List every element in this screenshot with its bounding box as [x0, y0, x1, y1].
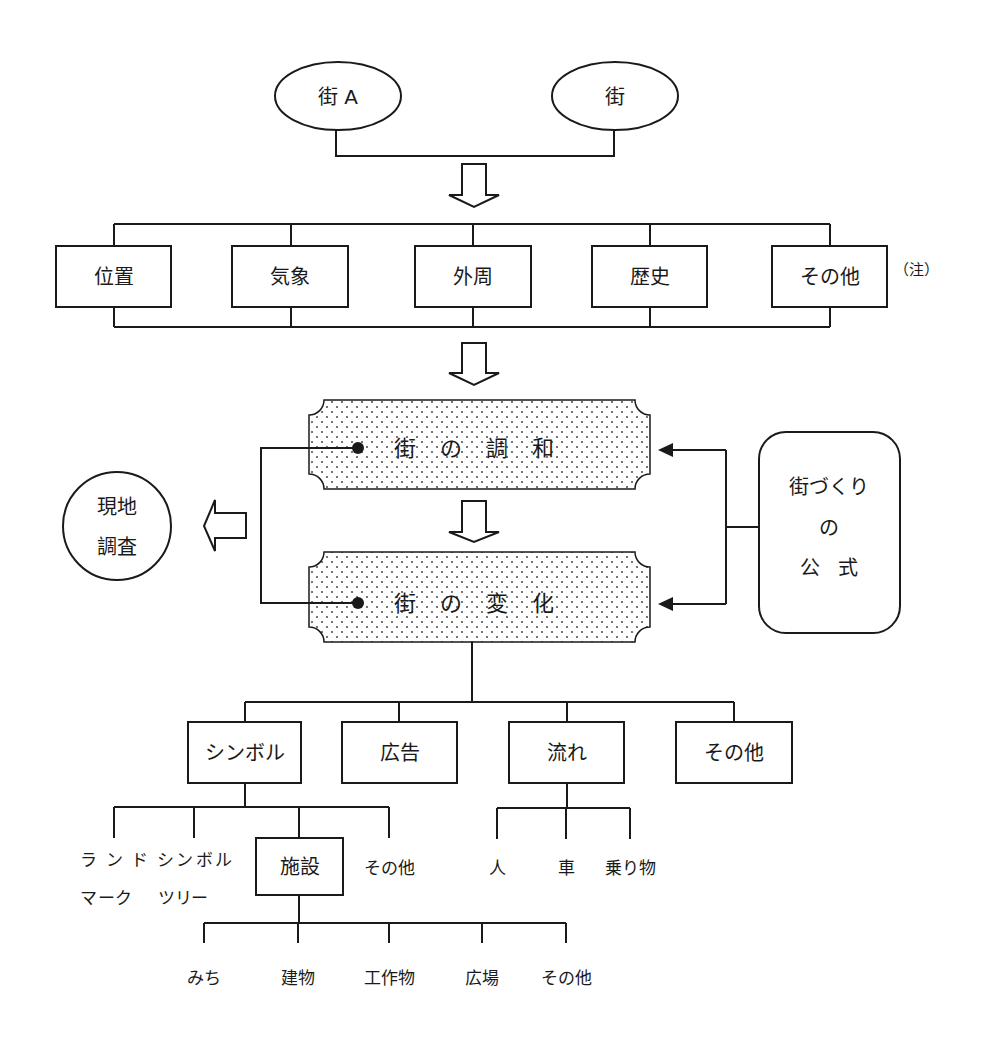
leaf-symbol-tree: シンボル ツリー — [157, 850, 232, 908]
leaf-label: マーク — [80, 888, 132, 908]
leaf-symbol-other: その他 — [364, 858, 415, 878]
leaf-plazas: 広場 — [465, 968, 499, 988]
node-facility: 施設 — [256, 838, 343, 895]
leaf-buildings: 建物 — [281, 968, 315, 988]
factor-label: 外周 — [453, 265, 493, 289]
leaf-roads: みち — [187, 968, 221, 988]
down-arrow-icon — [449, 164, 499, 207]
element-label: 広告 — [380, 741, 420, 765]
factor-label: 位置 — [94, 265, 134, 289]
leaf-label: シンボル — [157, 850, 232, 870]
loop-dot-icon — [352, 442, 364, 454]
field-survey-line1: 現地 — [97, 495, 137, 519]
facility-label: 施設 — [280, 855, 320, 879]
footnote-marker: （注） — [894, 261, 939, 279]
banner-change: 街の変化 — [309, 552, 650, 642]
factor-weather: 気象 — [232, 246, 348, 307]
formula-line2: の — [819, 516, 839, 540]
field-survey-line2: 調査 — [97, 535, 137, 559]
factor-surroundings: 外周 — [415, 246, 531, 307]
leaf-label: ランド — [80, 850, 148, 870]
formula-line1: 街づくり — [789, 475, 869, 499]
node-town-planning-formula: 街づくり の 公式 — [759, 432, 900, 633]
factor-label: 歴史 — [630, 265, 670, 289]
element-label: 流れ — [547, 741, 587, 765]
arrowhead-left-icon — [658, 443, 673, 457]
leaf-landmark: ランド マーク — [80, 850, 148, 908]
towns-connector — [336, 130, 614, 156]
element-advertising: 広告 — [342, 722, 457, 783]
element-flow: 流れ — [509, 722, 624, 783]
factor-label: 気象 — [270, 265, 310, 289]
down-arrow-icon — [449, 343, 499, 385]
element-label: シンボル — [205, 741, 285, 765]
factor-other: その他 — [772, 246, 887, 307]
loop-dot-icon — [352, 597, 364, 609]
node-field-survey: 現地 調査 — [63, 472, 171, 580]
leaf-cars: 車 — [558, 858, 575, 878]
leaf-facility-other: その他 — [541, 968, 592, 988]
arrowhead-left-icon — [658, 597, 673, 611]
leaf-vehicles: 乗り物 — [605, 858, 656, 878]
element-other: その他 — [676, 722, 792, 783]
town-a-label: 街 A — [318, 85, 358, 109]
node-town-a: 街 A — [275, 62, 401, 130]
down-arrow-icon — [449, 501, 499, 542]
factor-row: 位置 気象 外周 歴史 その他 （注） — [56, 224, 939, 327]
leaf-people: 人 — [489, 858, 506, 878]
element-label: その他 — [704, 741, 764, 765]
left-arrow-icon — [204, 500, 246, 551]
element-symbol: シンボル — [188, 722, 301, 783]
town-b-label: 街 — [605, 85, 625, 109]
factor-label: その他 — [800, 265, 860, 289]
factor-history: 歴史 — [592, 246, 707, 307]
townscape-diagram: 街 A 街 位置 気象 外周 歴史 そ — [0, 0, 994, 1044]
node-town-b: 街 — [552, 62, 678, 130]
leaf-structures: 工作物 — [364, 968, 415, 988]
factor-location: 位置 — [56, 246, 171, 307]
leaf-label: ツリー — [158, 888, 208, 908]
